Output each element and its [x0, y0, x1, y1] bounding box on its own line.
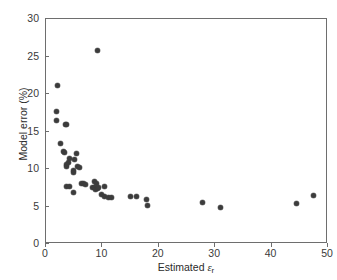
x-tick-label: 20 [138, 247, 178, 259]
y-tick-mark [45, 168, 49, 169]
data-point [83, 182, 88, 187]
x-axis-label: Estimated εr [45, 261, 327, 275]
data-point [64, 164, 69, 169]
y-tick-mark [45, 93, 49, 94]
y-tick-label: 0 [5, 237, 39, 249]
x-tick-label: 30 [194, 247, 234, 259]
y-tick-mark [45, 131, 49, 132]
scatter-chart-figure: 01020304050 051015202530 Estimated εr Mo… [0, 0, 337, 280]
y-axis-label: Model error (%) [17, 54, 29, 194]
data-point [200, 200, 205, 205]
data-point [102, 184, 107, 189]
y-tick-label: 30 [5, 12, 39, 24]
data-points-layer [46, 19, 326, 242]
data-point [134, 194, 139, 199]
x-axis-label-text: Estimated [158, 261, 208, 273]
data-point [74, 151, 79, 156]
data-point [128, 194, 133, 199]
data-point [95, 48, 100, 53]
data-point [144, 197, 149, 202]
y-tick-mark [45, 18, 49, 19]
data-point [71, 190, 76, 195]
x-tick-label: 50 [307, 247, 337, 259]
epsilon-subscript: r [212, 266, 215, 275]
plot-area [45, 18, 327, 243]
data-point [96, 185, 101, 190]
data-point [55, 83, 60, 88]
data-point [294, 201, 299, 206]
data-point [67, 184, 72, 189]
data-point [145, 203, 150, 208]
data-point [109, 195, 114, 200]
y-tick-mark [45, 56, 49, 57]
y-tick-mark [45, 206, 49, 207]
data-point [54, 118, 59, 123]
data-point [54, 109, 59, 114]
x-tick-label: 40 [251, 247, 291, 259]
data-point [64, 122, 69, 127]
x-tick-label: 10 [81, 247, 121, 259]
y-tick-mark [45, 243, 49, 244]
data-point [311, 193, 316, 198]
data-point [72, 157, 77, 162]
data-point [58, 141, 63, 146]
data-point [218, 205, 223, 210]
data-point [77, 165, 82, 170]
y-tick-label: 5 [5, 200, 39, 212]
data-point [71, 170, 76, 175]
data-point [62, 150, 67, 155]
